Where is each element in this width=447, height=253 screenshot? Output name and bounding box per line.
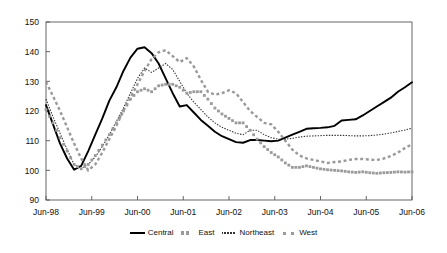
series-marker [294, 166, 297, 169]
series-marker [361, 170, 364, 173]
series-marker [189, 91, 192, 94]
series-marker [178, 86, 181, 89]
series-marker [228, 117, 231, 120]
series-marker [203, 94, 206, 97]
series-marker [400, 171, 403, 174]
series-marker [287, 164, 290, 167]
series-marker [196, 90, 199, 93]
series-marker [382, 171, 385, 174]
series-marker [122, 110, 125, 113]
plot-frame [46, 22, 412, 200]
series-marker [147, 89, 150, 92]
x-axis-tick-label: Jun-03 [262, 207, 288, 217]
legend-item-northeast[interactable]: Northeast [222, 229, 275, 237]
series-marker [393, 171, 396, 174]
series-marker [347, 170, 350, 173]
series-marker [340, 170, 343, 173]
series-markers-west [45, 83, 414, 175]
series-marker [252, 133, 255, 136]
series-marker [161, 84, 164, 87]
series-marker [76, 165, 79, 168]
series-marker [263, 145, 266, 148]
series-marker [210, 102, 213, 105]
series-marker [154, 87, 157, 90]
series-marker [280, 159, 283, 162]
series-marker [175, 84, 178, 87]
legend-item-east[interactable]: East [181, 229, 215, 237]
series-marker [259, 141, 262, 144]
series-marker [101, 144, 104, 147]
series-marker [316, 167, 319, 170]
series-marker [133, 94, 136, 97]
series-marker [182, 89, 185, 92]
series-marker [97, 149, 100, 152]
series-marker [143, 87, 146, 90]
series-marker [266, 148, 269, 151]
series-marker [368, 171, 371, 174]
series-marker [73, 163, 76, 166]
series-marker [168, 83, 171, 86]
series-marker [284, 162, 287, 165]
chart-legend: Central East Northeast West [0, 229, 447, 237]
y-axis-tick-label: 150 [25, 17, 39, 27]
series-marker [344, 170, 347, 173]
series-marker [62, 143, 65, 146]
series-marker [235, 121, 238, 124]
y-axis-tick-label: 110 [25, 136, 39, 146]
series-marker [69, 156, 72, 159]
series-marker [111, 127, 114, 130]
legend-item-central[interactable]: Central [130, 229, 174, 237]
series-marker [83, 165, 86, 168]
series-marker [365, 171, 368, 174]
series-marker [298, 166, 301, 169]
series-marker [206, 98, 209, 101]
series-marker [126, 104, 129, 107]
series-marker [94, 154, 97, 157]
series-marker [386, 171, 389, 174]
series-marker [185, 92, 188, 95]
series-marker [337, 169, 340, 172]
series-marker [221, 113, 224, 116]
series-marker [171, 83, 174, 86]
series-line-central [46, 47, 412, 170]
series-marker [305, 164, 308, 167]
series-marker [52, 121, 55, 124]
series-marker [249, 129, 252, 132]
series-marker [129, 98, 132, 101]
series-marker [407, 171, 410, 174]
chart-canvas: 90100110120130140150Jun-98Jun-99Jun-00Ju… [0, 0, 447, 253]
x-axis-tick-label: Jun-06 [399, 207, 425, 217]
series-marker [136, 90, 139, 93]
series-marker [389, 171, 392, 174]
legend-label-east: East [199, 229, 215, 237]
series-marker [333, 169, 336, 172]
y-axis-tick-label: 120 [25, 106, 39, 116]
series-marker [270, 151, 273, 154]
legend-label-central: Central [148, 229, 174, 237]
series-marker [104, 139, 107, 142]
series-marker [87, 163, 90, 166]
legend-item-west[interactable]: West [281, 229, 317, 237]
series-marker [273, 153, 276, 156]
series-marker [150, 90, 153, 93]
series-marker [115, 121, 118, 124]
series-marker [245, 125, 248, 128]
series-marker [330, 169, 333, 172]
x-axis-tick-label: Jun-05 [353, 207, 379, 217]
series-line-east [46, 50, 412, 170]
series-marker [164, 83, 167, 86]
series-marker [214, 107, 217, 110]
solid-line-key-icon [130, 232, 145, 234]
y-axis-tick-label: 100 [25, 166, 39, 176]
series-marker [291, 166, 294, 169]
series-marker [90, 159, 93, 162]
legend-label-northeast: Northeast [240, 229, 275, 237]
legend-label-west: West [299, 229, 317, 237]
series-marker [192, 90, 195, 93]
series-marker [319, 167, 322, 170]
series-marker [140, 89, 143, 92]
series-marker [354, 171, 357, 174]
series-marker [326, 168, 329, 171]
line-chart: 90100110120130140150Jun-98Jun-99Jun-00Ju… [0, 0, 447, 253]
series-marker [242, 121, 245, 124]
